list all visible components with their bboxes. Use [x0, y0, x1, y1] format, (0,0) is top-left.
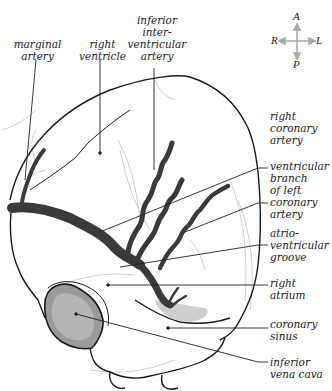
label-atrioventricular-groove: atrio- ventricular groove	[270, 227, 332, 263]
label-marginal-artery: marginal artery	[10, 38, 65, 62]
label-inferior-interventricular-artery: inferior inter- ventricular artery	[122, 14, 192, 62]
heart-diagram: A P R L marginal artery right ventricle …	[0, 0, 332, 391]
label-inferior-vena-cava: inferior vena cava	[270, 356, 332, 380]
compass-left: L	[316, 34, 322, 46]
compass-anterior: A	[293, 10, 300, 22]
compass-right: R	[271, 34, 278, 46]
label-coronary-sinus: coronary sinus	[270, 318, 332, 342]
compass-posterior: P	[293, 58, 300, 70]
label-right-atrium: right atrium	[270, 277, 332, 301]
arteries	[12, 143, 228, 306]
orientation-compass	[279, 24, 315, 59]
label-ventricular-branch-left-coronary: ventricular branch of left coronary arte…	[270, 160, 332, 220]
label-right-coronary-artery: right coronary artery	[270, 110, 332, 146]
faint-contours	[2, 80, 252, 372]
